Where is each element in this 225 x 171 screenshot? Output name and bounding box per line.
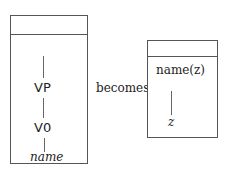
drs-condition: name(z) xyxy=(156,63,205,77)
right-drs-header xyxy=(148,41,217,57)
tree-edge xyxy=(43,98,44,118)
becomes-label: becomes xyxy=(96,81,149,95)
tree-edge xyxy=(171,91,172,115)
tree-leaf-name: name xyxy=(30,150,63,164)
tree-node-vp: VP xyxy=(34,80,51,95)
tree-edge xyxy=(43,56,44,78)
right-drs-box: name(z) z xyxy=(147,40,218,138)
tree-node-v0: V0 xyxy=(34,120,51,135)
tree-leaf-z: z xyxy=(168,115,174,129)
left-drs-box: VP V0 name xyxy=(10,15,88,164)
left-drs-header xyxy=(11,16,87,35)
